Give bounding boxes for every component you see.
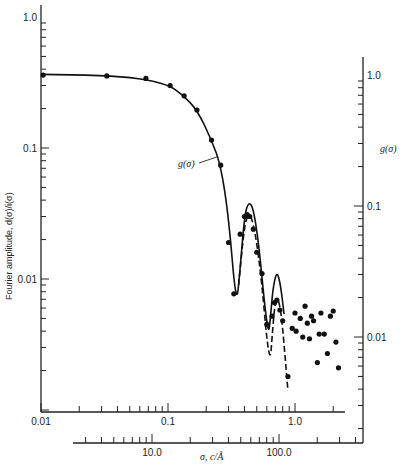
left-y-tick-label: 1.0 xyxy=(23,12,37,23)
data-point xyxy=(41,73,46,78)
data-point xyxy=(315,360,320,365)
data-point xyxy=(277,307,282,312)
y-axis-title: Fourier amplitude, d(σ)/i(σ) xyxy=(4,192,14,300)
g-sigma-annotation: g(σ) xyxy=(178,158,195,170)
data-point xyxy=(104,73,109,78)
data-point xyxy=(293,329,298,334)
data-point xyxy=(318,310,323,315)
data-point xyxy=(309,314,314,319)
x2-axis-title: σ, c/Å xyxy=(200,451,224,462)
second-x-tick-label: 100.0 xyxy=(266,447,291,458)
data-point xyxy=(254,250,259,255)
axes: 1.00.10.010.010.11.010.0100.01.00.10.01 xyxy=(18,5,387,458)
fit-dashed-curve xyxy=(239,216,288,391)
data-point xyxy=(333,339,338,344)
data-point xyxy=(285,374,290,379)
data-point xyxy=(209,137,214,142)
data-point xyxy=(305,321,310,326)
data-point xyxy=(331,308,336,313)
data-point xyxy=(269,314,274,319)
data-point xyxy=(300,335,305,340)
data-point xyxy=(218,163,223,168)
data-point xyxy=(231,291,236,296)
bottom-x-tick-label: 0.01 xyxy=(31,416,51,427)
data-point xyxy=(143,76,148,81)
data-point xyxy=(238,232,243,237)
annotation-arrow xyxy=(199,157,218,163)
data-point xyxy=(311,318,316,323)
data-point xyxy=(168,83,173,88)
data-point xyxy=(194,107,199,112)
data-point xyxy=(336,365,341,370)
bottom-x-tick-label: 1.0 xyxy=(288,416,302,427)
bottom-x-tick-label: 0.1 xyxy=(161,416,175,427)
curves xyxy=(41,74,288,391)
data-point xyxy=(251,227,256,232)
fourier-amplitude-chart: 1.00.10.010.010.11.010.0100.01.00.10.01 … xyxy=(0,0,402,470)
g-sigma-solid-curve xyxy=(41,74,284,329)
data-point xyxy=(264,322,269,327)
data-point xyxy=(307,336,312,341)
second-x-tick-label: 10.0 xyxy=(142,447,162,458)
data-point xyxy=(259,271,264,276)
data-point xyxy=(247,214,252,219)
data-point xyxy=(292,310,297,315)
data-point xyxy=(298,316,303,321)
data-point xyxy=(226,240,231,245)
data-point xyxy=(274,298,279,303)
data-point xyxy=(325,351,330,356)
left-y-tick-label: 0.1 xyxy=(23,143,37,154)
data-point xyxy=(322,331,327,336)
right-y-tick-label: 1.0 xyxy=(367,70,381,81)
axis-labels: Fourier amplitude, d(σ)/i(σ) σ, c/Å g(σ)… xyxy=(4,143,397,462)
data-point xyxy=(280,318,285,323)
data-point xyxy=(302,304,307,309)
data-points xyxy=(41,73,342,380)
right-y-tick-label: 0.1 xyxy=(367,201,381,212)
y2-axis-title: g(σ) xyxy=(380,143,397,155)
left-y-tick-label: 0.01 xyxy=(18,274,38,285)
data-point xyxy=(328,314,333,319)
data-point xyxy=(182,93,187,98)
right-y-tick-label: 0.01 xyxy=(367,332,387,343)
data-point xyxy=(317,331,322,336)
